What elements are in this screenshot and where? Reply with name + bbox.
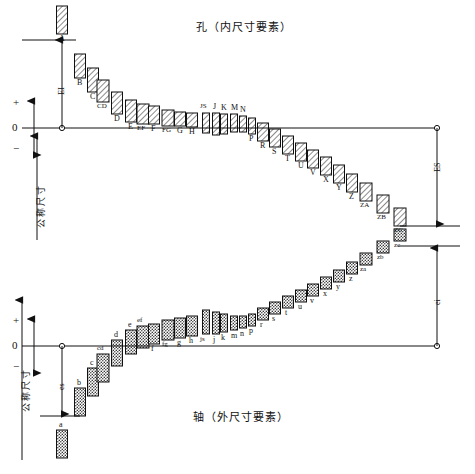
tolerance-zone-box: [221, 314, 228, 332]
zone-label-t: t: [285, 309, 287, 317]
tolerance-zone-box: [97, 80, 109, 102]
zone-label-fg: fg: [162, 341, 168, 348]
tolerance-zone-box: [137, 326, 149, 348]
zone-label-V: V: [310, 169, 316, 177]
tolerance-zone-box: [75, 54, 86, 78]
tolerance-zone-box: [126, 330, 137, 354]
tolerance-zone-box: [360, 183, 372, 201]
zone-label-f: f: [151, 345, 154, 353]
zone-label-F: F: [151, 125, 155, 133]
zone-label-U: U: [298, 162, 304, 170]
tolerance-zone-box: [296, 143, 307, 161]
zone-label-za: za: [360, 266, 366, 273]
shaft-es-label: es: [57, 383, 66, 390]
tolerance-zone-box: [112, 340, 123, 366]
zone-label-D: D: [114, 115, 120, 123]
zone-label-x: x: [323, 290, 327, 298]
tolerance-zone-box: [283, 296, 294, 308]
tolerance-zone-box: [283, 136, 294, 154]
zone-label-z: z: [349, 275, 353, 283]
zone-label-ZC: ZC: [394, 227, 403, 234]
zone-label-Z: Z: [349, 193, 354, 201]
tolerance-zone-box: [57, 430, 68, 458]
zone-label-k: k: [221, 334, 225, 342]
zone-label-ef: ef: [137, 317, 142, 324]
shaft-ei-label: ei: [433, 299, 442, 305]
tolerance-zone-box: [308, 284, 319, 296]
zone-label-j: j: [213, 336, 215, 344]
zone-label-T: T: [285, 155, 290, 163]
tolerance-zone-box: [203, 310, 210, 334]
hole-minus-sign: −: [13, 142, 19, 154]
zone-label-d: d: [114, 331, 118, 339]
tolerance-zone-box: [308, 150, 319, 168]
zone-label-g: g: [177, 339, 181, 347]
tolerance-zone-box: [187, 113, 198, 127]
tolerance-zone-box: [249, 118, 256, 134]
tolerance-zone-box: [57, 6, 68, 34]
zone-label-r: r: [260, 321, 263, 329]
shaft-plus-sign: +: [13, 314, 19, 326]
tolerance-zone-box: [162, 110, 174, 126]
zone-label-ZA: ZA: [360, 202, 369, 209]
tolerance-zone-box: [347, 174, 358, 192]
tolerance-zone-box: [377, 241, 389, 253]
tolerance-zone-box: [213, 113, 220, 135]
tolerance-zone-box: [394, 208, 406, 226]
zone-label-M: M: [231, 104, 238, 112]
zone-label-s: s: [272, 315, 275, 323]
tolerance-zone-box: [360, 253, 372, 265]
tolerance-zone-box: [258, 123, 269, 141]
zone-label-n: n: [240, 330, 244, 338]
zone-label-JS: JS: [200, 103, 207, 110]
zone-label-c: c: [90, 359, 94, 367]
zone-label-EF: EF: [137, 125, 145, 132]
tolerance-zone-box: [213, 312, 220, 334]
tolerance-zone-box: [221, 114, 228, 134]
zone-label-a: a: [59, 421, 63, 429]
shaft-axes: [22, 246, 460, 460]
shaft-zero-mark: 0: [12, 339, 18, 351]
zone-label-zb: zb: [377, 254, 384, 261]
tolerance-zone-box: [187, 316, 198, 336]
hole-nominal-size-label: 公称尺寸: [34, 184, 47, 228]
tolerance-zone-box: [175, 112, 186, 126]
hole-plus-sign: +: [13, 96, 19, 108]
zone-label-p: p: [249, 327, 253, 335]
zone-label-CD: CD: [97, 103, 107, 110]
tolerance-zone-box: [137, 104, 149, 124]
tolerance-zone-box: [240, 316, 247, 328]
zone-label-P: P: [249, 135, 253, 143]
tolerance-zone-box: [75, 388, 86, 416]
tolerance-zone-box: [203, 113, 210, 133]
zone-label-J: J: [213, 103, 216, 111]
hole-EI-label: EI: [57, 87, 66, 95]
tolerance-zone-box: [334, 165, 345, 183]
zone-label-R: R: [260, 142, 265, 150]
zone-label-u: u: [298, 303, 302, 311]
tolerance-zone-box: [231, 114, 238, 132]
shaft-title: 轴（外尺寸要素）: [193, 408, 289, 424]
tolerance-zone-box: [249, 314, 256, 326]
tolerance-zone-box: [270, 302, 281, 314]
zone-label-G: G: [177, 127, 183, 135]
tolerance-zone-box: [347, 262, 358, 274]
tolerance-zone-box: [162, 320, 174, 340]
zone-label-H: H: [189, 128, 195, 136]
zone-label-e: e: [128, 321, 132, 329]
tolerance-zone-diagram: 孔（内尺寸要素） 轴（外尺寸要素） 0 + − 0 + − EI ES es e…: [0, 0, 475, 474]
tolerance-zone-box: [270, 129, 281, 147]
hole-ES-label: ES: [433, 163, 442, 172]
tolerance-zone-box: [149, 106, 160, 124]
zone-label-y: y: [336, 283, 340, 291]
hole-title: 孔（内尺寸要素）: [196, 18, 292, 34]
tolerance-zone-box: [321, 277, 332, 289]
zone-label-js: js: [200, 336, 205, 343]
tolerance-zone-box: [258, 308, 269, 320]
tolerance-zone-box: [149, 324, 160, 344]
zone-label-zc: zc: [394, 242, 400, 249]
zone-label-v: v: [310, 297, 314, 305]
shaft-nominal-size-label: 公称尺寸: [19, 368, 32, 412]
tolerance-zone-box: [231, 316, 238, 330]
tolerance-zone-box: [112, 92, 123, 114]
